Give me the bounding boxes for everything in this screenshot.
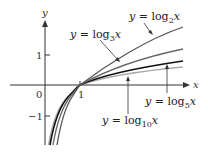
curve-log2 bbox=[57, 27, 183, 145]
y-axis-arrow-icon bbox=[42, 20, 48, 27]
origin-label: 0 bbox=[36, 89, 42, 100]
curves bbox=[49, 27, 184, 145]
x-axis-label: x bbox=[193, 79, 199, 90]
label-log10: y = log10x bbox=[101, 114, 159, 129]
y-tick-label-neg1: −1 bbox=[28, 111, 43, 122]
arrow-log5-head-icon bbox=[165, 64, 169, 69]
label-log5: y = log5x bbox=[144, 95, 197, 110]
log-functions-chart: x y 0 1 1 −1 y = log2x y = log3x y = log… bbox=[0, 0, 208, 155]
x-axis-arrow-icon bbox=[183, 82, 190, 88]
x-tick-label-1: 1 bbox=[78, 89, 84, 100]
arrow-log2-head-icon bbox=[148, 30, 153, 35]
label-log2: y = log2x bbox=[128, 10, 181, 25]
y-axis-label: y bbox=[41, 7, 48, 18]
label-log3: y = log3x bbox=[69, 28, 122, 43]
arrow-log3 bbox=[100, 40, 118, 60]
arrow-log10-head-icon bbox=[126, 76, 130, 81]
y-tick-label-1: 1 bbox=[36, 50, 42, 61]
